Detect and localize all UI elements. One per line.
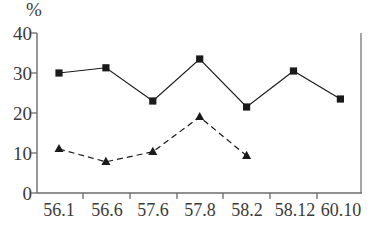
data-point-square xyxy=(290,67,297,74)
data-point-triangle xyxy=(55,144,64,152)
data-point-square xyxy=(196,55,203,62)
x-tick-label-0: 56.1 xyxy=(43,199,75,221)
x-tick-label-1: 56.6 xyxy=(91,199,123,221)
x-tick-label-6: 60.10 xyxy=(321,199,362,221)
data-series-group xyxy=(55,55,345,164)
data-point-square xyxy=(243,103,250,110)
data-point-triangle xyxy=(148,147,157,155)
x-tick-label-5: 58.12 xyxy=(275,199,316,221)
series-line-dashed-triangle-series xyxy=(59,117,247,162)
x-axis-labels: 56.1 56.6 57.6 57.8 58.2 58.12 60.10 xyxy=(0,199,372,229)
data-point-square xyxy=(337,95,344,102)
line-chart: % 40 30 20 10 0 56.1 56.6 57.6 xyxy=(0,0,372,235)
data-point-triangle xyxy=(195,112,204,120)
x-tick-label-2: 57.6 xyxy=(137,199,169,221)
series-line-solid-square-series xyxy=(59,59,340,107)
x-tick-label-4: 58.2 xyxy=(231,199,263,221)
data-point-square xyxy=(149,97,156,104)
y-axis-ticks xyxy=(31,33,37,193)
data-point-square xyxy=(102,64,109,71)
data-point-square xyxy=(55,69,62,76)
x-tick-label-3: 57.8 xyxy=(184,199,216,221)
data-point-triangle xyxy=(242,151,251,159)
